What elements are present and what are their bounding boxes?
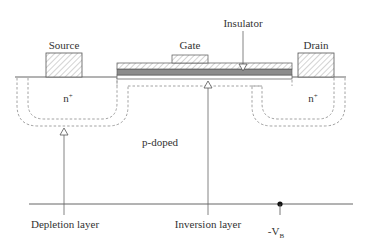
insulator-label: Insulator: [223, 17, 262, 29]
oxide-layer: [117, 69, 292, 75]
source-well: [17, 78, 128, 126]
inversion-label: Inversion layer: [175, 218, 242, 230]
source-label: Source: [49, 39, 80, 51]
source-contact: [46, 53, 82, 77]
source-doping-label: n+: [63, 92, 73, 104]
insulator-layer: [117, 63, 292, 69]
substrate-label: p-doped: [142, 136, 179, 148]
drain-well: [252, 78, 345, 126]
drain-well-boundary: [262, 78, 334, 119]
drain-depletion-boundary: [252, 78, 345, 126]
depletion-arrow: [60, 128, 68, 215]
mosfet-diagram: Source Gate Drain Insulator n+ n+ p-dope…: [0, 0, 380, 249]
drain-label: Drain: [303, 39, 329, 51]
source-depletion-boundary: [17, 78, 128, 126]
depletion-label: Depletion layer: [31, 218, 99, 230]
bias-label: -VB: [268, 225, 285, 240]
insulator-arrow: [239, 31, 247, 71]
inversion-channel: [117, 80, 292, 86]
gate-label: Gate: [180, 39, 201, 51]
arrow-head-icon: [204, 81, 212, 88]
arrow-head-icon: [60, 128, 68, 135]
channel-layer: [117, 75, 292, 79]
inversion-arrow: [204, 81, 212, 215]
gate-contact: [172, 55, 208, 63]
drain-doping-label: n+: [308, 92, 318, 104]
drain-contact: [298, 53, 334, 77]
gate-stack: [117, 55, 292, 79]
